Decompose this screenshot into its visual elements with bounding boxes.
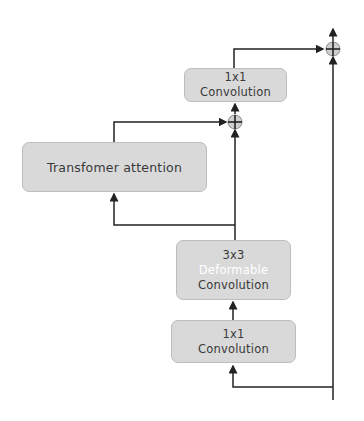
transformer-attention-label: Transfomer attention <box>47 160 182 175</box>
deform-line1: 3x3 <box>222 248 244 263</box>
sum-middle-icon <box>228 115 242 129</box>
diagram-canvas: 1x1 Convolution Transfomer attention 3x3… <box>0 0 364 421</box>
conv1x1-bottom-box: 1x1 Convolution <box>171 320 296 363</box>
deform-line2: Deformable <box>199 263 268 278</box>
conv1x1-bottom-line1: 1x1 <box>222 327 244 342</box>
sum-top-icon <box>326 42 340 56</box>
conv1x1-top-line2: Convolution <box>200 85 271 100</box>
deform-line3: Convolution <box>198 278 269 293</box>
conv1x1-top-box: 1x1 Convolution <box>184 68 287 102</box>
conv1x1-bottom-line2: Convolution <box>198 342 269 357</box>
conv1x1-top-line1: 1x1 <box>224 70 246 85</box>
transformer-attention-box: Transfomer attention <box>22 142 207 192</box>
deformable-conv-box: 3x3 Deformable Convolution <box>176 240 291 300</box>
